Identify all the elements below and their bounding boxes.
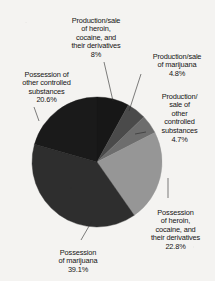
slice-label-possession-heroin: Possession of heroin, cocaine, and their…: [137, 200, 214, 260]
slice-label-text: Possession of other controlled substance…: [22, 70, 71, 96]
slice-label-production-marijuana: Production/sale of marijuana 4.8%: [140, 44, 214, 87]
slice-label-possession-marijuana: Possession of marijuana 39.1%: [35, 240, 121, 281]
slice-percent: 39.1%: [35, 266, 121, 275]
slice-percent: 8%: [57, 51, 135, 60]
slice-label-text: Production/sale of heroin, cocaine, and …: [71, 16, 120, 51]
slice-label-production-heroin: Production/sale of heroin, cocaine, and …: [57, 8, 135, 68]
slice-label-text: Production/ sale of other controlled sub…: [162, 92, 198, 135]
slice-label-text: Possession of heroin, cocaine, and their…: [151, 208, 200, 243]
slice-label-text: Possession of marijuana: [59, 248, 98, 266]
slice-label-text: Production/sale of marijuana: [153, 52, 202, 70]
slice-label-possession-other: Possession of other controlled substance…: [5, 62, 88, 114]
slice-percent: 22.8%: [137, 243, 214, 252]
pie-chart: Production/sale of heroin, cocaine, and …: [0, 0, 215, 281]
slice-percent: 20.6%: [5, 96, 88, 105]
slice-percent: 4.8%: [140, 70, 214, 79]
slice-percent: 4.7%: [145, 136, 214, 145]
slice-label-production-other: Production/ sale of other controlled sub…: [145, 84, 214, 153]
